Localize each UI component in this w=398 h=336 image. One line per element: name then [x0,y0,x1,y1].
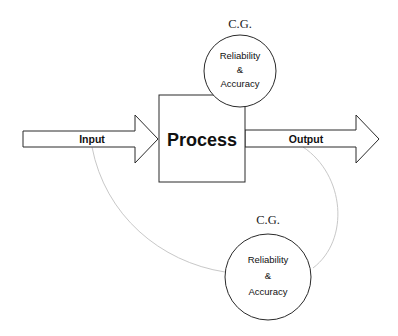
process-diagram: Input Output Process C.G. Reliability & … [0,0,398,336]
bottom-cg-line-3: Accuracy [248,286,287,297]
output-arrow: Output [245,115,379,163]
top-cg-tag: C.G. [228,17,252,31]
output-label: Output [289,133,324,145]
input-arrow: Input [23,115,158,163]
process-box: Process [159,95,245,182]
top-cg-line-1: Reliability [220,50,261,61]
bottom-cg-line-2: & [265,270,272,281]
process-label: Process [167,130,237,150]
top-cg-line-2: & [237,64,244,75]
top-cg-line-3: Accuracy [220,78,259,89]
bottom-cg-line-1: Reliability [248,254,289,265]
input-label: Input [79,133,105,145]
bottom-control-gate: C.G. Reliability & Accuracy [225,213,311,320]
bottom-cg-tag: C.G. [256,213,280,227]
output-feedback-connector [303,147,338,268]
top-control-gate: C.G. Reliability & Accuracy [204,17,276,107]
